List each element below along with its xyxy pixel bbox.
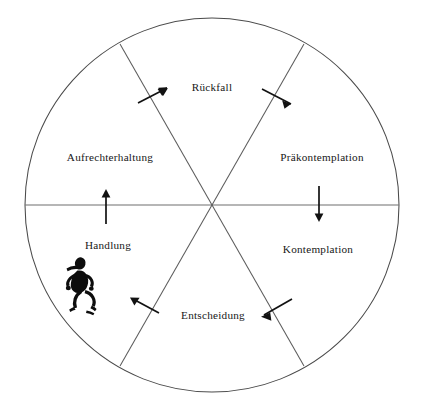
wheel-svg: Rückfall Präkontemplation Kontemplation … — [0, 0, 423, 402]
sector-label-aufrechterhaltung: Aufrechterhaltung — [67, 151, 153, 163]
sector-label-entscheidung: Entscheidung — [181, 309, 245, 321]
sector-label-handlung: Handlung — [85, 239, 131, 251]
sector-label-praekontemplation: Präkontemplation — [280, 151, 364, 163]
stages-of-change-diagram: Rückfall Präkontemplation Kontemplation … — [0, 0, 423, 402]
sector-label-rueckfall: Rückfall — [192, 81, 233, 93]
sector-label-kontemplation: Kontemplation — [283, 243, 354, 255]
